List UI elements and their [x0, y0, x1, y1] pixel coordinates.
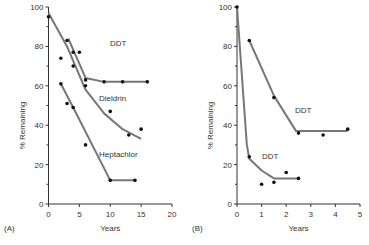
series-label: Heptachlor: [99, 150, 138, 159]
y-tick-label: 40: [35, 121, 44, 130]
data-point: [47, 15, 51, 19]
series-label: DDT: [262, 152, 279, 161]
data-point: [248, 39, 252, 43]
x-tick-label: 5: [358, 210, 363, 219]
chart-figure: 02040608010005101520Years% Remaining(A)D…: [0, 0, 369, 245]
x-axis-label: Years: [100, 224, 120, 233]
data-point: [84, 143, 88, 147]
data-point: [139, 127, 143, 131]
data-point: [272, 96, 276, 100]
data-point: [346, 127, 350, 131]
data-point: [65, 39, 69, 43]
data-point: [297, 177, 301, 181]
data-point: [127, 133, 131, 137]
x-tick-label: 2: [284, 210, 289, 219]
data-point: [84, 84, 88, 88]
y-tick-label: 20: [35, 161, 44, 170]
y-tick-label: 80: [35, 42, 44, 51]
data-point: [71, 64, 75, 68]
y-axis-label: % Remaining: [206, 102, 215, 150]
panel-label: (B): [192, 224, 203, 233]
data-point: [102, 80, 106, 84]
y-tick-label: 20: [223, 161, 232, 170]
data-point: [78, 51, 82, 55]
data-point: [65, 102, 69, 106]
panel-label: (A): [4, 224, 15, 233]
data-point: [146, 80, 150, 84]
data-point: [272, 181, 276, 185]
y-tick-label: 60: [35, 82, 44, 91]
x-tick-label: 10: [106, 210, 115, 219]
x-axis-label: Years: [288, 224, 308, 233]
y-tick-label: 100: [30, 3, 44, 12]
y-tick-label: 80: [223, 42, 232, 51]
x-tick-label: 0: [46, 210, 51, 219]
y-tick-label: 0: [228, 200, 233, 209]
y-axis-label: % Remaining: [18, 102, 27, 150]
x-tick-label: 3: [309, 210, 314, 219]
series-label: Dieldrin: [99, 94, 126, 103]
series-label: DDT: [295, 106, 312, 115]
y-tick-label: 60: [223, 82, 232, 91]
series-curve: [249, 40, 347, 131]
data-point: [284, 171, 288, 175]
data-point: [121, 80, 125, 84]
data-point: [108, 110, 112, 114]
series-curve: [49, 13, 142, 139]
x-tick-label: 4: [333, 210, 338, 219]
data-point: [59, 56, 63, 60]
y-tick-label: 100: [219, 3, 233, 12]
data-point: [133, 179, 137, 183]
data-point: [71, 106, 75, 110]
x-tick-label: 20: [168, 210, 177, 219]
data-point: [84, 78, 88, 82]
x-tick-label: 1: [259, 210, 264, 219]
data-point: [71, 51, 75, 55]
x-tick-label: 15: [137, 210, 146, 219]
y-tick-label: 40: [223, 121, 232, 130]
data-point: [59, 82, 63, 86]
series-label: DDT: [110, 39, 127, 48]
y-tick-label: 0: [39, 200, 44, 209]
x-tick-label: 0: [235, 210, 240, 219]
data-point: [235, 5, 239, 9]
data-point: [248, 155, 252, 159]
data-point: [260, 183, 264, 187]
data-point: [108, 179, 112, 183]
x-tick-label: 5: [77, 210, 82, 219]
data-point: [297, 131, 301, 135]
data-point: [321, 133, 325, 137]
